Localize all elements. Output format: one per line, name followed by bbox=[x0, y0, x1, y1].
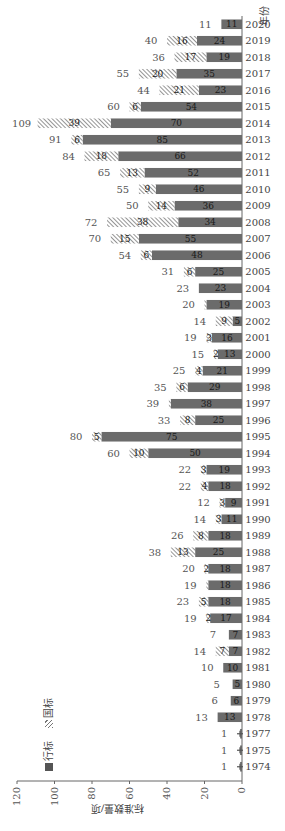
value-label-guobiao: 8 bbox=[185, 415, 191, 425]
bar-group-2002: 59142002 bbox=[193, 316, 270, 327]
value-label-hangbiao: 18 bbox=[219, 580, 231, 590]
bar-group-1990: 113141990 bbox=[193, 514, 270, 525]
total-label: 40 bbox=[145, 35, 158, 46]
year-label: 2003 bbox=[245, 299, 270, 310]
bar-group-2006: 486542006 bbox=[118, 250, 270, 261]
year-label: 1982 bbox=[245, 646, 270, 657]
value-label-guobiao: 3 bbox=[216, 514, 222, 524]
value-label-hangbiao: 11 bbox=[226, 514, 237, 524]
total-label: 22 bbox=[178, 481, 191, 492]
total-label: 65 bbox=[98, 167, 111, 178]
value-label-guobiao: 2 bbox=[213, 349, 219, 359]
value-label-hangbiao: 19 bbox=[218, 300, 230, 310]
bar-group-1998: 296351998 bbox=[154, 382, 271, 393]
bar-group-1988: 2513381988 bbox=[148, 547, 270, 558]
bar-group-2008: 3438722008 bbox=[85, 217, 271, 228]
year-label: 2015 bbox=[245, 101, 270, 112]
year-label: 1984 bbox=[245, 613, 270, 624]
year-label: 1986 bbox=[245, 580, 270, 591]
bar-group-2016: 2321442016 bbox=[137, 85, 271, 96]
plot-area: 0204060801001201197411975119771313197866… bbox=[11, 16, 271, 806]
bar-group-1987: 182201987 bbox=[182, 563, 271, 574]
value-label-guobiao: 2 bbox=[204, 564, 210, 574]
total-label: 1 bbox=[221, 761, 227, 772]
value-label-hangbiao: 18 bbox=[219, 564, 231, 574]
total-label: 14 bbox=[193, 646, 206, 657]
year-label: 2009 bbox=[245, 200, 270, 211]
total-label: 19 bbox=[184, 613, 197, 624]
bar-group-1978: 13131978 bbox=[195, 712, 270, 723]
legend: 行标 国标 bbox=[40, 698, 55, 771]
total-label: 12 bbox=[197, 497, 210, 508]
value-label-hangbiao: 55 bbox=[185, 234, 197, 244]
total-label: 91 bbox=[49, 134, 62, 145]
value-label-guobiao: 8 bbox=[198, 531, 204, 541]
year-label: 2016 bbox=[245, 85, 270, 96]
value-label-guobiao: 9 bbox=[221, 316, 227, 326]
bar-group-1999: 214251999 bbox=[173, 365, 271, 376]
value-label-guobiao: 5 bbox=[94, 432, 100, 442]
bar-group-2000: 132152000 bbox=[192, 349, 271, 360]
total-label: 7 bbox=[210, 629, 216, 640]
bar-group-2004: 23232004 bbox=[177, 283, 271, 294]
total-label: 14 bbox=[193, 514, 206, 525]
value-label-hangbiao: 35 bbox=[203, 69, 215, 79]
total-label: 33 bbox=[158, 415, 171, 426]
total-label: 19 bbox=[184, 580, 197, 591]
value-label-hangbiao: 10 bbox=[227, 663, 239, 673]
bar-group-1983: 771983 bbox=[210, 629, 271, 640]
year-label: 1978 bbox=[245, 712, 270, 723]
value-label-hangbiao: 18 bbox=[219, 531, 231, 541]
total-label: 19 bbox=[184, 332, 197, 343]
value-label-hangbiao: 9 bbox=[231, 498, 237, 508]
bar-group-1993: 193221993 bbox=[178, 464, 270, 475]
value-label-guobiao: 3 bbox=[201, 465, 207, 475]
bar-guobiao bbox=[206, 580, 208, 590]
value-label-hangbiao: 7 bbox=[233, 646, 239, 656]
value-label-guobiao: 20 bbox=[152, 69, 164, 79]
total-label: 60 bbox=[107, 101, 120, 112]
year-label: 1989 bbox=[245, 530, 270, 541]
value-label-hangbiao: 34 bbox=[204, 217, 216, 227]
year-label: 2001 bbox=[245, 332, 270, 343]
value-label-guobiao: 15 bbox=[119, 234, 131, 244]
bar-group-1995: 755801995 bbox=[70, 431, 271, 442]
total-label: 15 bbox=[192, 349, 205, 360]
year-label: 1977 bbox=[245, 728, 270, 739]
total-label: 23 bbox=[177, 596, 190, 607]
value-label-guobiao: 16 bbox=[176, 36, 188, 46]
value-label-guobiao: 6 bbox=[187, 267, 193, 277]
year-label: 1997 bbox=[245, 398, 270, 409]
value-label-hangbiao: 75 bbox=[166, 432, 178, 442]
value-label-guobiao: 6 bbox=[74, 135, 80, 145]
bar-group-1984: 172191984 bbox=[184, 613, 271, 624]
value-label-hangbiao: 25 bbox=[213, 547, 225, 557]
bar-group-1986: 18191986 bbox=[184, 580, 271, 591]
total-label: 36 bbox=[152, 52, 165, 63]
value-label-hangbiao: 5 bbox=[234, 679, 240, 689]
value-label-hangbiao: 7 bbox=[233, 630, 239, 640]
bar-group-2009: 3614502009 bbox=[126, 200, 271, 211]
year-label: 1996 bbox=[245, 415, 270, 426]
bar-group-2019: 2416402019 bbox=[145, 35, 271, 46]
total-label: 14 bbox=[193, 316, 206, 327]
total-label: 38 bbox=[148, 547, 161, 558]
total-label: 20 bbox=[182, 563, 195, 574]
total-label: 44 bbox=[137, 85, 150, 96]
hatched-square-icon bbox=[45, 720, 53, 728]
year-label: 2000 bbox=[245, 349, 270, 360]
total-label: 72 bbox=[85, 217, 98, 228]
bar-group-1974: 11974 bbox=[221, 761, 271, 772]
total-label: 10 bbox=[201, 662, 214, 673]
year-label: 1988 bbox=[245, 547, 270, 558]
value-label-hangbiao: 70 bbox=[171, 118, 183, 128]
total-label: 31 bbox=[162, 266, 175, 277]
total-label: 60 bbox=[107, 448, 120, 459]
value-label-guobiao: 6 bbox=[179, 382, 185, 392]
total-label: 20 bbox=[182, 299, 195, 310]
year-label: 1990 bbox=[245, 514, 270, 525]
value-label-guobiao: 3 bbox=[219, 498, 225, 508]
bar-group-1989: 188261989 bbox=[171, 530, 271, 541]
year-label: 1992 bbox=[245, 481, 270, 492]
year-label: 2011 bbox=[245, 167, 270, 178]
